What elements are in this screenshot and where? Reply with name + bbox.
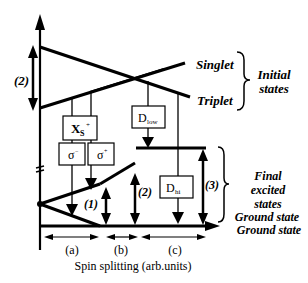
svg-text:S: S [80, 129, 85, 138]
svg-text:D: D [166, 181, 175, 195]
svg-text:low: low [147, 118, 158, 126]
region-c-label: (c) [168, 243, 181, 257]
arrow-label-1: (1) [84, 197, 98, 211]
singlet-label: Singlet [196, 57, 234, 72]
initial-states-label-1: Initial [256, 67, 291, 82]
region-arrows [44, 234, 206, 240]
svg-text:states: states [253, 197, 282, 211]
svg-text:D: D [138, 111, 147, 125]
xs-box: X S + [63, 116, 97, 140]
svg-text:Ground state: Ground state [237, 223, 302, 237]
ground-state-axis [40, 221, 220, 231]
spin-splitting-diagram: (2) Singlet Triplet Initial states X S +… [0, 0, 308, 283]
arrow-label-2b: (2) [138, 185, 152, 199]
singlet-triplet-lines [40, 47, 190, 108]
x-axis-label: Spin splitting (arb.units) [75, 259, 192, 273]
svg-text:σ: σ [68, 148, 75, 162]
region-b-label: (b) [114, 243, 128, 257]
triplet-label: Triplet [197, 93, 233, 108]
svg-text:σ: σ [97, 148, 104, 162]
d-hi-box: D hi [160, 176, 193, 198]
sigma-plus-box: σ + [88, 143, 114, 165]
final-state-lines [37, 163, 135, 226]
final-states-brace [218, 147, 229, 222]
svg-text:Final: Final [253, 169, 282, 183]
d-low-box: D low [132, 106, 165, 128]
sigma-minus-box: σ − [59, 143, 85, 165]
svg-text:excited: excited [251, 183, 287, 197]
svg-text:+: + [86, 121, 90, 129]
left-splitting-arrow [28, 45, 38, 111]
arrow-label-3: (3) [205, 178, 219, 192]
svg-text:hi: hi [175, 188, 181, 196]
initial-states-label-2: states [258, 81, 289, 96]
svg-text:Ground state: Ground state [235, 210, 300, 224]
initial-states-brace [237, 52, 250, 110]
region-a-label: (a) [65, 243, 78, 257]
left-arrow-label: (2) [14, 73, 29, 88]
